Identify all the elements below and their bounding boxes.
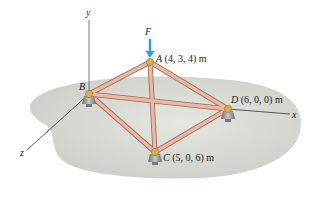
z-axis-label: z (20, 148, 24, 158)
joint-d-label: D (6, 0, 0) m (231, 95, 283, 105)
ground-plane (30, 76, 301, 178)
joint-b-label: B (79, 82, 85, 92)
joint-d (224, 105, 231, 112)
y-axis-label: y (86, 8, 90, 18)
joint-a-label: A (4, 3, 4) m (156, 54, 207, 64)
joint-c-label: C (5, 0, 6) m (163, 153, 214, 163)
joint-a (146, 58, 153, 65)
x-axis-label: x (292, 110, 296, 120)
truss-diagram: y x z F A (4, 3, 4) m B C (5, 0, 6) m D … (0, 0, 313, 199)
force-arrow-icon (146, 39, 155, 58)
force-label: F (145, 27, 151, 37)
joint-c (151, 148, 158, 155)
joint-b (85, 90, 92, 97)
